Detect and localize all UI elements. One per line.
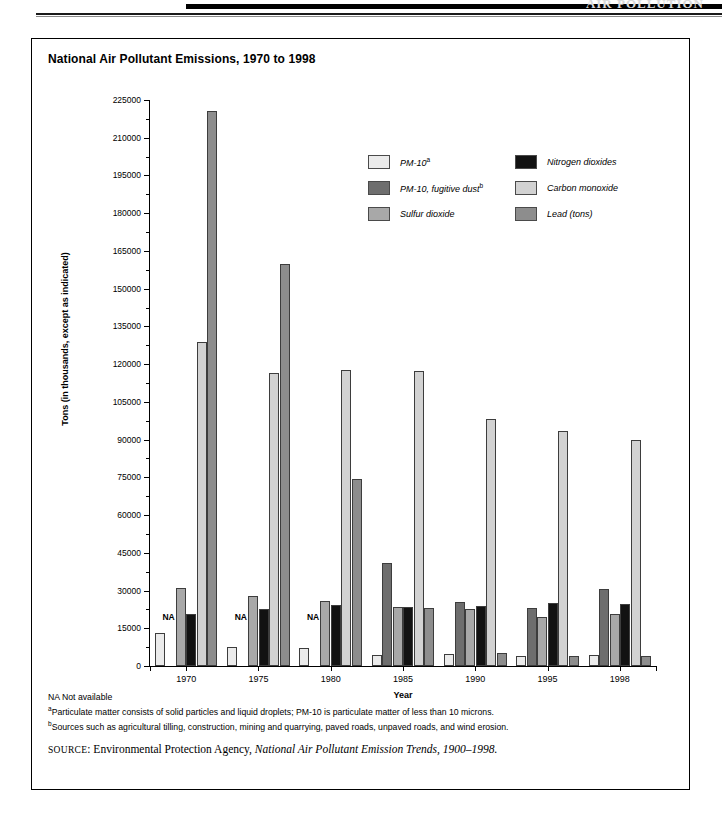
y-tick-minor xyxy=(146,534,150,535)
bar-group-1970: NA xyxy=(155,100,218,666)
y-tick-label: 180000 xyxy=(113,208,141,218)
bar-1998-pm-10-fugitive-dust xyxy=(599,589,609,666)
y-tick-label: 45000 xyxy=(117,548,141,558)
y-tick-minor xyxy=(146,609,150,610)
legend-item-nitrogen-dioxides: Nitrogen dioxides xyxy=(515,149,658,175)
chart-legend: PM-10aNitrogen dioxidesPM-10, fugitive d… xyxy=(368,149,658,227)
bar-1975-lead-tons xyxy=(280,264,290,666)
legend-swatch-carbon-monoxide xyxy=(515,181,537,195)
bar-1980-nitrogen-dioxides xyxy=(331,605,341,666)
y-tick-label: 210000 xyxy=(113,133,141,143)
x-tick-label: 1980 xyxy=(321,674,341,684)
legend-swatch-pm10 xyxy=(368,155,390,169)
bar-1998-pm-10 xyxy=(589,655,599,666)
y-tick-minor xyxy=(146,421,150,422)
footnote-3: bSources such as agricultural tilling, c… xyxy=(48,719,668,734)
y-tick-label: 105000 xyxy=(113,397,141,407)
y-tick-major xyxy=(144,138,150,139)
y-tick-minor xyxy=(146,345,150,346)
x-tick xyxy=(331,666,332,671)
bar-1995-lead-tons xyxy=(569,656,579,666)
header-rule-thin xyxy=(36,13,722,15)
y-tick-label: 60000 xyxy=(117,510,141,520)
legend-label-pm10: PM-10a xyxy=(400,156,430,168)
y-tick-minor xyxy=(146,572,150,573)
bar-1990-sulfur-dioxide xyxy=(465,609,475,666)
legend-item-carbon-monoxide: Carbon monoxide xyxy=(515,175,658,201)
x-tick-label: 1990 xyxy=(465,674,485,684)
bar-1985-nitrogen-dioxides xyxy=(403,607,413,666)
x-tick-label: 1985 xyxy=(393,674,413,684)
bar-1998-carbon-monoxide xyxy=(631,440,641,666)
y-tick-label: 0 xyxy=(136,661,141,671)
x-tick-label: 1975 xyxy=(248,674,268,684)
na-annotation: NA xyxy=(235,612,247,622)
x-tick xyxy=(475,666,476,671)
x-tick-label: 1998 xyxy=(610,674,630,684)
y-tick-label: 135000 xyxy=(113,321,141,331)
bar-1970-carbon-monoxide xyxy=(197,342,207,667)
legend-item-pm10: PM-10a xyxy=(368,149,511,175)
bar-group-1980: NA xyxy=(299,100,362,666)
y-tick-label: 120000 xyxy=(113,359,141,369)
bar-1970-lead-tons xyxy=(207,111,217,666)
bar-1985-pm-10-fugitive-dust xyxy=(382,563,392,666)
y-tick-label: 90000 xyxy=(117,435,141,445)
bar-1985-lead-tons xyxy=(424,608,434,666)
y-tick-major xyxy=(144,402,150,403)
bar-1995-pm-10-fugitive-dust xyxy=(527,608,537,666)
bar-1975-nitrogen-dioxides xyxy=(259,609,269,666)
x-tick-label: 1995 xyxy=(538,674,558,684)
chart-title: National Air Pollutant Emissions, 1970 t… xyxy=(48,52,316,66)
y-tick-minor xyxy=(146,119,150,120)
bar-1990-pm-10-fugitive-dust xyxy=(455,602,465,666)
bar-1990-nitrogen-dioxides xyxy=(476,606,486,666)
y-tick-major xyxy=(144,515,150,516)
y-tick-major xyxy=(144,364,150,365)
y-tick-label: 195000 xyxy=(113,170,141,180)
x-tick xyxy=(403,666,404,671)
x-tick xyxy=(258,666,259,671)
legend-swatch-pm10-fugitive-dust xyxy=(368,181,390,195)
legend-swatch-nitrogen-dioxides xyxy=(515,155,537,169)
bar-1985-carbon-monoxide xyxy=(414,371,424,666)
y-tick-major xyxy=(144,591,150,592)
y-tick-minor xyxy=(146,157,150,158)
bar-1975-sulfur-dioxide xyxy=(248,596,258,666)
bar-1990-lead-tons xyxy=(497,653,507,666)
bar-1990-carbon-monoxide xyxy=(486,419,496,666)
y-tick-label: 225000 xyxy=(113,95,141,105)
page-header: AIR POLLUTION xyxy=(0,0,722,34)
bar-group-1975: NA xyxy=(227,100,290,666)
x-tick xyxy=(620,666,621,671)
y-axis-title: Tons (in thousands, except as indicated) xyxy=(60,252,70,425)
y-tick-label: 165000 xyxy=(113,246,141,256)
legend-item-sulfur-dioxide: Sulfur dioxide xyxy=(368,201,511,227)
source-agency: : Environmental Protection Agency, xyxy=(87,743,255,755)
bar-1980-carbon-monoxide xyxy=(341,370,351,666)
x-tick-label: 1970 xyxy=(176,674,196,684)
y-tick-minor xyxy=(146,496,150,497)
bar-1975-pm-10 xyxy=(227,647,237,666)
y-tick-label: 30000 xyxy=(117,586,141,596)
bar-1998-lead-tons xyxy=(641,656,651,666)
y-tick-major xyxy=(144,326,150,327)
bar-1995-nitrogen-dioxides xyxy=(548,603,558,666)
source-prefix: SOURCE xyxy=(48,745,87,755)
legend-swatch-lead-tons xyxy=(515,207,537,221)
header-rule-hairline xyxy=(36,16,722,17)
bar-1985-pm-10 xyxy=(372,655,382,666)
y-tick-minor xyxy=(146,383,150,384)
y-tick-label: 75000 xyxy=(117,472,141,482)
x-tick xyxy=(186,666,187,671)
footnotes: NA Not availableaParticulate matter cons… xyxy=(48,690,668,734)
bar-1995-sulfur-dioxide xyxy=(537,617,547,666)
y-tick-major xyxy=(144,100,150,101)
bar-1970-nitrogen-dioxides xyxy=(186,614,196,666)
legend-label-pm10-fugitive-dust: PM-10, fugitive dustb xyxy=(400,182,483,194)
y-tick-label: 150000 xyxy=(113,284,141,294)
y-tick-minor xyxy=(146,458,150,459)
y-tick-major xyxy=(144,628,150,629)
legend-item-lead-tons: Lead (tons) xyxy=(515,201,658,227)
na-annotation: NA xyxy=(162,612,174,622)
